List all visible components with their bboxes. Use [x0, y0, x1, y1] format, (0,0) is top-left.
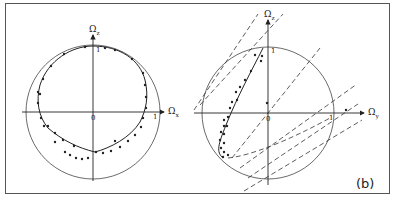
left-unit-tick-vertical: 1: [96, 47, 100, 54]
right-z-axis-label: Ωz: [264, 10, 275, 21]
panel-label: (b): [356, 176, 374, 191]
left-x-axis-label: Ωx: [168, 107, 179, 118]
figure: Ωz Ωx 0 1 1 Ωz Ωy 0 1 1 (b): [0, 0, 394, 201]
figure-graphics: [0, 0, 394, 201]
right-y-axis-label: Ωy: [368, 108, 379, 119]
left-unit-tick-horizontal: 1: [153, 114, 157, 121]
fitted-curve: [38, 46, 147, 152]
fitted-curve: [219, 48, 263, 158]
right-unit-tick-horizontal: 1: [329, 115, 333, 122]
left-panel: [22, 35, 164, 181]
dashed-lines: [194, 14, 362, 191]
right-panel: [194, 14, 364, 191]
right-unit-tick-vertical: 1: [271, 48, 275, 55]
right-origin-label: 0: [266, 116, 270, 123]
left-z-axis-label: Ωz: [89, 25, 100, 36]
data-points: [219, 54, 347, 158]
left-origin-label: 0: [91, 115, 95, 122]
